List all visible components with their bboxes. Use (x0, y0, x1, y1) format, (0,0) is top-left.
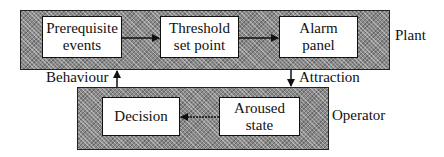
connectors (0, 0, 444, 157)
